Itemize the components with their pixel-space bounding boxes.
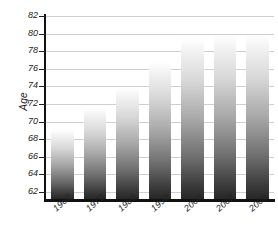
y-axis-tick (39, 16, 46, 17)
y-axis-tick (39, 34, 46, 35)
y-axis-tick-label: 74 (4, 81, 38, 90)
bar (84, 108, 107, 199)
bar (181, 39, 204, 199)
y-axis-tick (39, 51, 46, 52)
y-axis-line (44, 14, 46, 201)
y-axis-tick (39, 174, 46, 175)
y-axis-tick (39, 69, 46, 70)
bar (214, 35, 237, 200)
y-axis-tick-label: 80 (4, 29, 38, 38)
y-axis-tick (39, 86, 46, 87)
y-axis-tick-label: 78 (4, 46, 38, 55)
bar (51, 130, 74, 200)
y-axis-tick-label: 72 (4, 99, 38, 108)
y-axis-labels: 6264666870727476788082 (0, 0, 38, 242)
bar (149, 62, 172, 199)
y-axis-tick (39, 104, 46, 105)
y-axis-tick-label: 66 (4, 152, 38, 161)
y-axis-tick-label: 70 (4, 117, 38, 126)
y-axis-tick-label: 68 (4, 134, 38, 143)
bar (116, 88, 139, 199)
bar (246, 35, 269, 200)
y-axis-tick-label: 76 (4, 64, 38, 73)
bar-chart: Age 6264666870727476788082 1960197019801… (0, 0, 278, 242)
bars-layer (46, 16, 274, 199)
y-axis-tick-label: 82 (4, 11, 38, 20)
y-axis-tick-label: 62 (4, 187, 38, 196)
y-axis-tick (39, 157, 46, 158)
y-axis-tick (39, 139, 46, 140)
y-axis-tick (39, 192, 46, 193)
y-axis-tick (39, 122, 46, 123)
y-axis-tick-label: 64 (4, 169, 38, 178)
